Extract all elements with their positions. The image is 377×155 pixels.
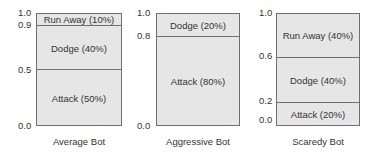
segment-dodge: Dodge (40%) — [37, 25, 121, 70]
segment-attack: Attack (50%) — [37, 69, 121, 126]
segment-dodge: Dodge (40%) — [277, 57, 359, 103]
chart-scaredy-bot: 1.0 0.6 0.2 0.0 Run Away (40%) Dodge (40… — [250, 0, 377, 155]
segment-dodge: Dodge (20%) — [157, 14, 239, 36]
segment-run-away: Run Away (40%) — [277, 14, 359, 57]
segment-attack: Attack (20%) — [277, 102, 359, 126]
segment-run-away: Run Away (10%) — [37, 14, 121, 25]
x-axis-label: Average Bot — [36, 136, 122, 147]
segment-attack: Attack (80%) — [157, 36, 239, 126]
x-axis-label: Aggressive Bot — [156, 136, 240, 147]
stacked-bar: Dodge (20%) Attack (80%) — [156, 13, 240, 126]
x-axis-label: Scaredy Bot — [276, 136, 360, 147]
stacked-bar: Run Away (10%) Dodge (40%) Attack (50%) — [36, 13, 122, 126]
chart-aggressive-bot: 1.0 0.8 0.0 Dodge (20%) Attack (80%) Agg… — [125, 0, 250, 155]
chart-average-bot: 1.0 0.9 0.5 0.0 Run Away (10%) Dodge (40… — [0, 0, 125, 155]
stacked-bar: Run Away (40%) Dodge (40%) Attack (20%) — [276, 13, 360, 126]
